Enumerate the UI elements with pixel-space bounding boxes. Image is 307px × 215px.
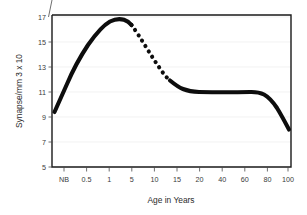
y-tick-label-7: 7 (42, 138, 46, 147)
x-axis-title-group: Age in Years (147, 195, 194, 205)
y-tick-label-11: 11 (39, 88, 46, 97)
chart-figure: 17 15 13 11 9 7 5 NB 0.5 1 5 10 (0, 0, 307, 215)
x-axis-title: Age in Years (147, 195, 194, 205)
x-tick-label-20: 20 (196, 175, 204, 184)
x-tick-label-nb: NB (59, 175, 69, 184)
y-tick-label-15: 15 (38, 38, 46, 47)
x-tick-label-100: 100 (282, 175, 294, 184)
y-tick-label-13: 13 (38, 63, 46, 72)
x-tick-label-10: 10 (150, 175, 158, 184)
x-tick-label-05: 0.5 (82, 175, 92, 184)
x-tick-label-80: 80 (263, 175, 271, 184)
y-tick-label-5: 5 (42, 163, 46, 172)
y-tick-label-17: 17 (38, 13, 46, 22)
x-tick-label-60: 60 (241, 175, 249, 184)
x-tick-label-40: 40 (218, 175, 226, 184)
y-axis-title-group: Synapse/mm 3 x 10 (14, 54, 24, 128)
y-tick-label-9: 9 (42, 113, 46, 122)
y-axis-title: Synapse/mm 3 x 10 (14, 54, 24, 128)
x-tick-label-5: 5 (130, 175, 134, 184)
x-tick-label-15: 15 (173, 175, 181, 184)
x-tick-label-1: 1 (107, 175, 111, 184)
synaptic-density-line-chart: 17 15 13 11 9 7 5 NB 0.5 1 5 10 (0, 0, 307, 215)
